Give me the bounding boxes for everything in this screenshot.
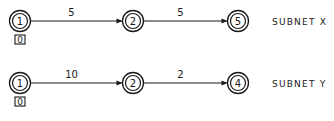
subnet-x-node-label: 5 [235, 16, 241, 27]
arrowhead-icon [117, 19, 123, 24]
subnet-y-start-value: 0 [17, 97, 23, 107]
subnet-x-node-label: 2 [130, 16, 136, 27]
arrowhead-icon [222, 81, 228, 86]
subnet-y-edge-weight: 10 [65, 69, 78, 80]
subnet-y-node-label: 1 [17, 78, 23, 89]
subnet-y-edge-weight: 2 [177, 69, 183, 80]
subnet-y-node-label: 4 [235, 78, 241, 89]
subnet-x-edge-weight: 5 [68, 7, 74, 18]
subnet-x-start-value: 0 [17, 35, 23, 45]
subnet-y-node-label: 2 [130, 78, 136, 89]
subnet-x-label: SUBNET X [272, 17, 327, 27]
arrowhead-icon [117, 81, 123, 86]
subnet-y-label: SUBNET Y [272, 79, 326, 89]
arrowhead-icon [222, 19, 228, 24]
subnet-x-edge-weight: 5 [177, 7, 183, 18]
subnet-x-node-label: 1 [17, 16, 23, 27]
subnet-diagram: 551250SUBNET X1021240SUBNET Y [0, 0, 334, 121]
